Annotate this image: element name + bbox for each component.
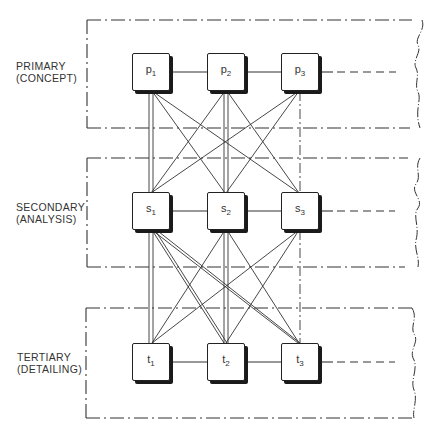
node-t1: t1 (132, 343, 170, 381)
node-label: t2 (208, 353, 244, 368)
continuation-edges (319, 72, 396, 362)
level-name: TERTIARY (17, 351, 82, 363)
node-label: t3 (282, 353, 318, 368)
node-label: s2 (208, 202, 244, 217)
node-p3: p3 (281, 53, 319, 91)
node-p1: p1 (132, 53, 170, 91)
level-name: SECONDARY (16, 201, 85, 213)
break-lines (412, 20, 423, 418)
primary-secondary-edges (149, 91, 300, 193)
node-t3: t3 (281, 343, 319, 381)
node-label: p1 (133, 63, 169, 78)
level-label-secondary: SECONDARY (ANALYSIS) (16, 201, 85, 225)
node-label: t1 (133, 353, 169, 368)
level-name: PRIMARY (16, 60, 77, 72)
node-t2: t2 (207, 343, 245, 381)
node-label: p3 (282, 63, 318, 78)
node-p2: p2 (207, 53, 245, 91)
level-sub: (CONCEPT) (16, 72, 77, 84)
level-label-tertiary: TERTIARY (DETAILING) (17, 351, 82, 375)
level-sub: (DETAILING) (17, 363, 82, 375)
node-label: s1 (133, 202, 169, 217)
node-label: s3 (282, 202, 318, 217)
secondary-tertiary-edges (149, 228, 300, 343)
node-s3: s3 (281, 192, 319, 230)
node-s1: s1 (132, 192, 170, 230)
node-s2: s2 (207, 192, 245, 230)
level-label-primary: PRIMARY (CONCEPT) (16, 60, 77, 84)
node-label: p2 (208, 63, 244, 78)
level-sub: (ANALYSIS) (16, 213, 85, 225)
